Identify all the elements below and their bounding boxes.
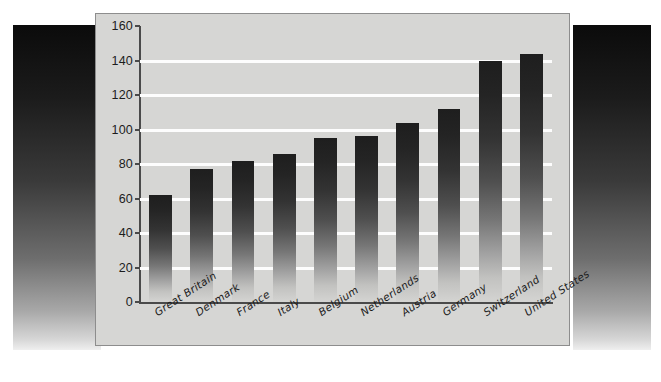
- y-tick-label: 120: [112, 88, 133, 102]
- chart-figure: 020406080100120140160 Great BritainDenma…: [0, 0, 661, 382]
- y-tick-mark: [135, 129, 140, 131]
- y-tick-label: 100: [112, 123, 133, 137]
- y-tick-label: 20: [119, 261, 133, 275]
- y-tick-mark: [135, 232, 140, 234]
- y-tick-label: 0: [126, 295, 133, 309]
- y-tick-mark: [135, 94, 140, 96]
- y-tick-mark: [135, 60, 140, 62]
- bar: [438, 109, 461, 302]
- chart-card: 020406080100120140160 Great BritainDenma…: [95, 13, 570, 346]
- bar: [479, 61, 502, 303]
- x-axis-tick-labels: Great BritainDenmarkFranceItalyBelgiumNe…: [140, 306, 552, 351]
- y-tick-label: 40: [119, 226, 133, 240]
- y-tick-mark: [135, 267, 140, 269]
- bar: [520, 54, 543, 302]
- bar: [149, 195, 172, 302]
- decorative-gradient-band-right: [573, 25, 651, 350]
- y-tick-mark: [135, 198, 140, 200]
- plot-area: 020406080100120140160: [140, 26, 552, 302]
- bar: [355, 136, 378, 302]
- y-tick-label: 60: [119, 192, 133, 206]
- y-tick-mark: [135, 163, 140, 165]
- y-tick-mark: [135, 25, 140, 27]
- y-tick-mark: [135, 301, 140, 303]
- bar: [314, 138, 337, 302]
- y-tick-label: 80: [119, 157, 133, 171]
- y-tick-label: 140: [112, 54, 133, 68]
- y-tick-label: 160: [112, 19, 133, 33]
- bar: [273, 154, 296, 302]
- decorative-gradient-band-left: [13, 25, 101, 350]
